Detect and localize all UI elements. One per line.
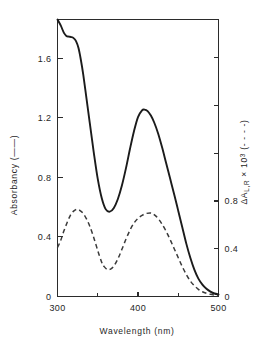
y-left-tick-label: 1.2: [38, 113, 52, 123]
y-axis-right-title-legend: (- - - -): [239, 119, 249, 152]
x-tick-label: 300: [49, 303, 65, 313]
y-axis-right-title-delta: ΔA: [239, 192, 249, 205]
y-left-tick-label: 0.4: [38, 232, 52, 242]
y-right-tick-label: 0: [225, 292, 230, 302]
y-right-tick-label: 0.8: [225, 196, 239, 206]
spectrum-chart: 300400500 00.40.81.21.6 00.40.8 Waveleng…: [0, 0, 265, 343]
x-tick-label: 500: [210, 303, 226, 313]
x-tick-label: 400: [130, 303, 146, 313]
y-axis-right-title-times: × 10: [239, 157, 249, 180]
y-right-tick-label: 0.4: [225, 244, 239, 254]
y-left-tick-label: 0.8: [38, 173, 52, 183]
figure-root: 300400500 00.40.81.21.6 00.40.8 Waveleng…: [0, 0, 265, 343]
y-left-tick-label: 0: [46, 292, 51, 302]
y-axis-left-title: Absorbancy (——): [9, 135, 19, 215]
x-axis-title: Wavelength (nm): [100, 326, 175, 336]
y-axis-left-title-text: Absorbancy (——): [9, 135, 19, 215]
y-axis-right-title-subscript: L,R: [243, 180, 250, 192]
y-left-tick-label: 1.6: [38, 54, 52, 64]
